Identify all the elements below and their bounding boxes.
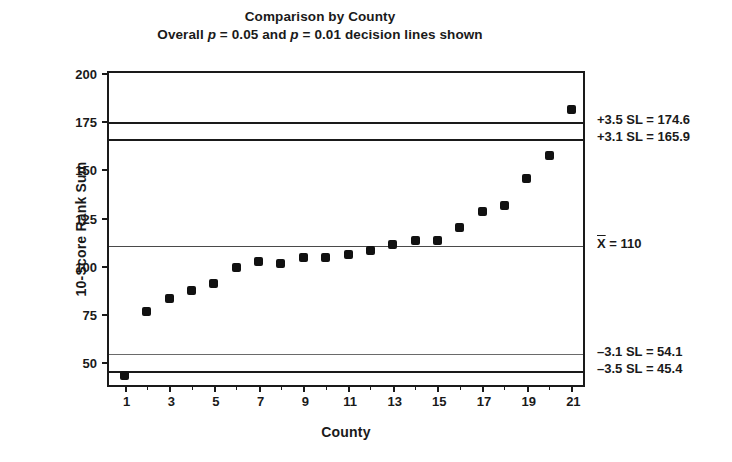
x-axis-tick-label: 7 <box>257 394 264 410</box>
x-axis-tick: 15 <box>437 385 439 392</box>
x-axis-minor-tick <box>147 385 148 390</box>
x-axis-minor-tick <box>326 385 327 390</box>
x-axis-tick: 1 <box>125 385 127 392</box>
subtitle-pre: Overall <box>157 27 207 42</box>
data-point <box>500 201 509 210</box>
subtitle-mid-2: = 0.01 decision lines shown <box>299 27 483 42</box>
plot-inner: 507510012515017520013579111315171921 <box>109 73 583 385</box>
data-point <box>187 286 196 295</box>
page-title: Comparison by County <box>0 8 640 26</box>
x-axis-minor-tick <box>549 385 550 390</box>
x-axis-tick: 9 <box>303 385 305 392</box>
annotation-lcl-3-5: –3.5 SL = 45.4 <box>597 360 682 377</box>
reference-line-center <box>109 246 583 247</box>
data-point <box>321 253 330 262</box>
y-axis-tick: 150 <box>102 169 109 171</box>
data-point <box>120 371 129 380</box>
data-point <box>344 250 353 259</box>
y-axis-tick: 100 <box>102 266 109 268</box>
x-axis-tick-label: 1 <box>123 394 130 410</box>
annotation-center: X = 110 <box>597 235 641 252</box>
y-axis-tick: 125 <box>102 218 109 220</box>
x-axis-tick-label: 5 <box>212 394 219 410</box>
y-axis-tick: 50 <box>102 362 109 364</box>
x-axis-tick: 7 <box>259 385 261 392</box>
data-point <box>165 294 174 303</box>
x-axis-tick: 17 <box>482 385 484 392</box>
data-point <box>276 259 285 268</box>
x-axis-minor-tick <box>504 385 505 390</box>
x-axis-minor-tick <box>281 385 282 390</box>
y-axis-tick: 175 <box>102 121 109 123</box>
data-point <box>478 207 487 216</box>
x-axis-minor-tick <box>415 385 416 390</box>
data-point <box>455 223 464 232</box>
annotation-lcl-3-1: –3.1 SL = 54.1 <box>597 343 682 360</box>
data-point <box>254 257 263 266</box>
subtitle-mid-1: = 0.05 and <box>216 27 290 42</box>
x-axis-tick: 5 <box>214 385 216 392</box>
x-axis-tick-label: 21 <box>566 394 580 410</box>
data-point <box>433 236 442 245</box>
x-axis-minor-tick <box>192 385 193 390</box>
x-axis-tick-label: 11 <box>343 394 357 410</box>
x-axis-tick: 21 <box>571 385 573 392</box>
data-point <box>545 151 554 160</box>
x-axis-tick-label: 17 <box>477 394 491 410</box>
chart-title-block: Comparison by County Overall p = 0.05 an… <box>0 8 640 44</box>
reference-line-ucl-3-5 <box>109 122 583 124</box>
x-axis-tick: 11 <box>348 385 350 392</box>
x-bar-symbol: X <box>597 236 606 251</box>
x-axis-title: County <box>107 424 585 440</box>
data-point <box>522 174 531 183</box>
y-axis-tick-label: 175 <box>75 114 97 132</box>
x-axis-minor-tick <box>460 385 461 390</box>
data-point <box>209 279 218 288</box>
subtitle-p-symbol-2: p <box>290 27 298 42</box>
reference-line-ucl-3-1 <box>109 139 583 141</box>
data-point <box>142 307 151 316</box>
x-axis-tick-label: 19 <box>521 394 535 410</box>
x-axis-tick: 19 <box>527 385 529 392</box>
chart-page: Comparison by County Overall p = 0.05 an… <box>0 0 732 462</box>
subtitle-p-symbol-1: p <box>208 27 216 42</box>
y-axis-tick-label: 200 <box>75 66 97 84</box>
x-axis-tick-label: 9 <box>302 394 309 410</box>
reference-line-lcl-3-5 <box>109 371 583 373</box>
x-axis-tick-label: 3 <box>168 394 175 410</box>
data-point <box>299 253 308 262</box>
data-point <box>388 240 397 249</box>
y-axis-tick: 200 <box>102 73 109 75</box>
x-axis-tick-label: 13 <box>387 394 401 410</box>
y-axis-tick-label: 75 <box>83 307 97 325</box>
chart-subtitle: Overall p = 0.05 and p = 0.01 decision l… <box>0 26 640 44</box>
data-point <box>411 236 420 245</box>
x-axis-tick-label: 15 <box>432 394 446 410</box>
annotation-ucl-3-1: +3.1 SL = 165.9 <box>597 128 690 145</box>
data-point <box>366 246 375 255</box>
y-axis-title: 10-Score Rank Sum <box>73 162 89 297</box>
data-point <box>232 263 241 272</box>
x-bar-value: = 110 <box>606 236 642 251</box>
plot-area: 507510012515017520013579111315171921 <box>107 71 585 387</box>
annotation-ucl-3-5: +3.5 SL = 174.6 <box>597 111 690 128</box>
x-axis-minor-tick <box>370 385 371 390</box>
y-axis-tick: 75 <box>102 314 109 316</box>
y-axis-tick-label: 50 <box>83 355 97 373</box>
data-point <box>567 105 576 114</box>
reference-line-lcl-3-1 <box>109 354 583 355</box>
x-axis-tick: 13 <box>393 385 395 392</box>
x-axis-tick: 3 <box>169 385 171 392</box>
x-axis-minor-tick <box>236 385 237 390</box>
